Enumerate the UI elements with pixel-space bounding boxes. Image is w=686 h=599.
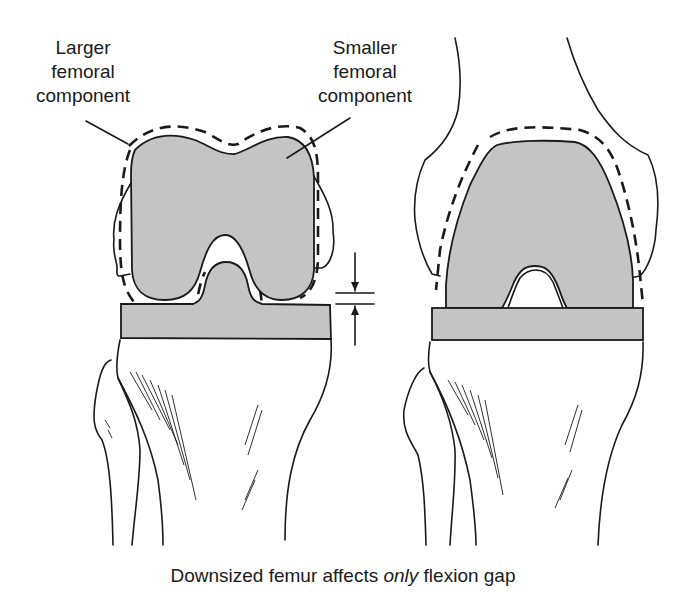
- leader-line-larger: [86, 121, 128, 144]
- label-larger-line1: Larger: [22, 36, 144, 60]
- tibia-hatching-right: [448, 380, 582, 508]
- tibia-right: [429, 342, 644, 545]
- right-knee: [404, 38, 658, 545]
- fibula-left: [94, 360, 140, 545]
- caption-emphasis: only: [383, 565, 418, 586]
- label-smaller-line2: femoral: [300, 60, 430, 84]
- label-smaller-line3: component: [300, 84, 430, 108]
- caption-before: Downsized femur affects: [170, 565, 383, 586]
- tibia-hatching-left: [105, 372, 262, 510]
- smaller-femoral-component-right: [446, 141, 633, 308]
- label-larger-line3: component: [22, 84, 144, 108]
- label-smaller-femoral-component: Smaller femoral component: [300, 36, 430, 108]
- label-larger-line2: femoral: [22, 60, 144, 84]
- figure-caption: Downsized femur affects only flexion gap: [0, 565, 686, 587]
- left-knee: [86, 118, 374, 545]
- leader-line-smaller: [287, 118, 350, 158]
- tibial-insert-right: [432, 308, 643, 340]
- tibia-left: [117, 340, 332, 545]
- caption-after: flexion gap: [418, 565, 515, 586]
- fibula-right: [404, 368, 455, 545]
- flexion-gap-indicator: [336, 253, 374, 345]
- label-larger-femoral-component: Larger femoral component: [22, 36, 144, 108]
- label-smaller-line1: Smaller: [300, 36, 430, 60]
